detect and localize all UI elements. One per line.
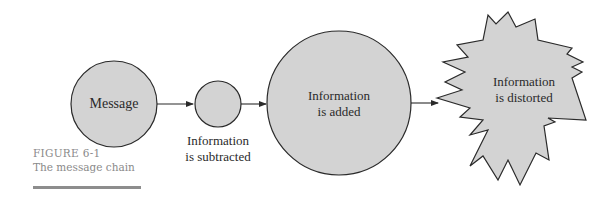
node-distorted: Information is distorted <box>437 12 586 185</box>
figure-title: The message chain <box>33 160 135 174</box>
caption-rule <box>33 186 141 189</box>
figure-caption: FIGURE 6-1 The message chain <box>33 146 135 174</box>
node-added: Information is added <box>267 31 411 175</box>
figure-number: FIGURE 6-1 <box>33 146 135 160</box>
node-subtracted: Information is subtracted <box>185 81 251 164</box>
node-distorted-label-line2: is distorted <box>495 90 553 105</box>
node-distorted-label-line1: Information <box>493 74 556 89</box>
node-message: Message <box>71 61 157 147</box>
node-subtracted-label-line2: is subtracted <box>185 149 251 164</box>
node-subtracted-label-line1: Information <box>187 133 250 148</box>
node-added-label-line1: Information <box>308 88 371 103</box>
node-message-label: Message <box>90 96 139 111</box>
node-added-label-line2: is added <box>318 104 361 119</box>
